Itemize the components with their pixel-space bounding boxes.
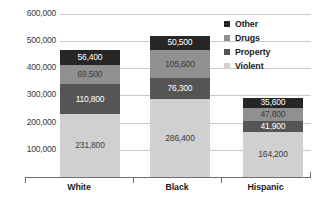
segment-value-label: 110,800 xyxy=(76,95,105,104)
legend-swatch-icon xyxy=(224,35,230,41)
legend-label: Violent xyxy=(235,62,263,71)
legend-swatch-icon xyxy=(224,49,230,55)
segment-value-label: 76,300 xyxy=(168,84,193,93)
y-axis-tick-label: 100,000 xyxy=(0,145,56,154)
y-axis-tick-label: 300,000 xyxy=(0,90,56,99)
y-axis-tick-label: 200,000 xyxy=(0,118,56,127)
bar-segment-other[interactable]: 50,500 xyxy=(150,36,210,50)
segment-value-label: 231,800 xyxy=(75,141,104,150)
x-axis-line xyxy=(25,177,311,178)
bar-segment-property[interactable]: 41,900 xyxy=(243,121,303,132)
x-axis-label-black: Black xyxy=(133,182,221,192)
segment-value-label: 35,600 xyxy=(261,98,286,107)
legend-label: Drugs xyxy=(235,34,260,43)
bar-segment-violent[interactable]: 286,400 xyxy=(150,99,210,177)
segment-value-label: 164,200 xyxy=(258,150,287,159)
bar-hispanic[interactable]: 35,60047,80041,900164,200 xyxy=(243,98,303,177)
bar-white[interactable]: 56,40069,500110,800231,800 xyxy=(60,50,120,177)
x-axis-label-white: White xyxy=(25,182,133,192)
legend-label: Property xyxy=(235,48,270,57)
bar-black[interactable]: 50,500105,60076,300286,400 xyxy=(150,36,210,177)
x-axis-tick xyxy=(310,172,311,178)
bar-segment-violent[interactable]: 164,200 xyxy=(243,132,303,177)
y-axis-tick-label: 500,000 xyxy=(0,36,56,45)
bar-segment-property[interactable]: 110,800 xyxy=(60,84,120,114)
bar-segment-property[interactable]: 76,300 xyxy=(150,78,210,99)
bar-segment-drugs[interactable]: 47,800 xyxy=(243,108,303,121)
segment-value-label: 69,500 xyxy=(78,70,103,79)
y-axis-tick-label: 400,000 xyxy=(0,63,56,72)
legend-item-drugs[interactable]: Drugs xyxy=(224,31,270,45)
legend-item-violent[interactable]: Violent xyxy=(224,59,270,73)
segment-value-label: 286,400 xyxy=(165,134,194,143)
legend-item-other[interactable]: Other xyxy=(224,17,270,31)
legend-item-property[interactable]: Property xyxy=(224,45,270,59)
segment-value-label: 56,400 xyxy=(78,53,103,62)
x-axis-label-hispanic: Hispanic xyxy=(221,182,310,192)
bar-segment-other[interactable]: 35,600 xyxy=(243,98,303,108)
legend-swatch-icon xyxy=(224,21,230,27)
stacked-bar-chart: 100,000200,000300,000400,000500,000600,0… xyxy=(0,0,321,199)
bar-segment-violent[interactable]: 231,800 xyxy=(60,114,120,177)
segment-value-label: 105,600 xyxy=(165,60,194,69)
plot-area: 56,40069,500110,800231,80050,500105,6007… xyxy=(60,14,311,177)
bar-segment-other[interactable]: 56,400 xyxy=(60,50,120,65)
bar-segment-drugs[interactable]: 69,500 xyxy=(60,65,120,84)
legend-label: Other xyxy=(235,20,258,29)
y-axis-tick-label: 600,000 xyxy=(0,9,56,18)
segment-value-label: 50,500 xyxy=(168,38,193,47)
segment-value-label: 41,900 xyxy=(261,122,286,131)
legend-swatch-icon xyxy=(224,63,230,69)
chart-legend: OtherDrugsPropertyViolent xyxy=(224,17,270,73)
bar-segment-drugs[interactable]: 105,600 xyxy=(150,50,210,79)
segment-value-label: 47,800 xyxy=(261,110,286,119)
